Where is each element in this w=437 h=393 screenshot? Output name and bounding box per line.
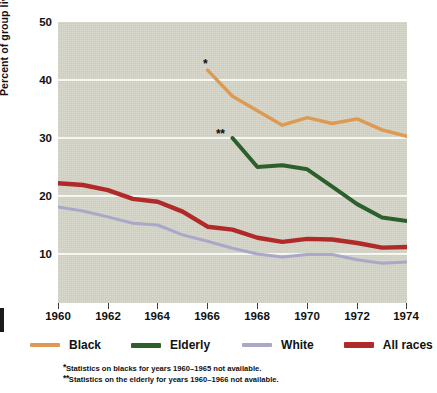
y-tick-label-40: 40 — [22, 74, 52, 86]
legend-item-all-races[interactable]: All races — [344, 338, 433, 352]
series-line-all-races — [58, 183, 407, 247]
x-tick-1972 — [357, 303, 358, 309]
legend-label-white: White — [281, 338, 314, 352]
annotation-asterisk-black: * — [203, 58, 207, 70]
legend-item-black[interactable]: Black — [30, 338, 101, 352]
x-tick-label-1970: 1970 — [287, 310, 327, 322]
x-tick-1970 — [307, 303, 308, 309]
plot-area — [58, 22, 407, 303]
legend-label-all-races: All races — [383, 338, 433, 352]
series-lines — [58, 22, 407, 303]
series-line-elderly — [233, 138, 408, 221]
legend-swatch-elderly — [131, 343, 161, 348]
x-tick-1964 — [157, 303, 158, 309]
x-tick-label-1966: 1966 — [187, 310, 227, 322]
x-tick-label-1962: 1962 — [88, 310, 128, 322]
footnote-elderly: **Statistics on the elderly for years 19… — [63, 375, 403, 386]
chart-legend: Black Elderly White All races — [18, 338, 426, 352]
footnote-text-two: Statistics on the elderly for years 1960… — [69, 375, 279, 384]
legend-swatch-all-races — [344, 342, 374, 348]
footnote-text-one: Statistics on blacks for years 1960–1965… — [66, 364, 261, 373]
x-tick-label-1964: 1964 — [137, 310, 177, 322]
legend-item-white[interactable]: White — [242, 338, 314, 352]
y-axis-title: Percent of group living below poverty li… — [0, 0, 10, 96]
annotation-asterisk-elderly: ** — [216, 128, 224, 140]
y-tick-label-20: 20 — [22, 190, 52, 202]
x-tick-label-1960: 1960 — [38, 310, 78, 322]
footnotes: *Statistics on blacks for years 1960–196… — [63, 364, 403, 386]
x-tick-label-1972: 1972 — [337, 310, 377, 322]
figure-edge-rule — [0, 308, 4, 332]
x-tick-label-1968: 1968 — [237, 310, 277, 322]
x-tick-label-1974: 1974 — [386, 310, 426, 322]
series-line-black — [208, 70, 407, 136]
poverty-line-chart-figure: Percent of group living below poverty li… — [0, 0, 437, 393]
legend-swatch-white — [242, 343, 272, 347]
series-line-white — [58, 207, 407, 263]
y-tick-label-50: 50 — [22, 16, 52, 28]
x-tick-1962 — [108, 303, 109, 309]
legend-label-black: Black — [69, 338, 101, 352]
x-tick-1974 — [406, 303, 407, 309]
legend-label-elderly: Elderly — [170, 338, 210, 352]
legend-swatch-black — [30, 343, 60, 347]
x-tick-1960 — [58, 303, 59, 309]
footnote-marker-one: * — [63, 362, 66, 372]
y-tick-label-10: 10 — [22, 248, 52, 260]
footnote-marker-two: ** — [63, 373, 69, 383]
x-tick-1968 — [257, 303, 258, 309]
x-tick-1966 — [207, 303, 208, 309]
footnote-black: *Statistics on blacks for years 1960–196… — [63, 364, 403, 375]
legend-item-elderly[interactable]: Elderly — [131, 338, 210, 352]
y-tick-label-30: 30 — [22, 132, 52, 144]
